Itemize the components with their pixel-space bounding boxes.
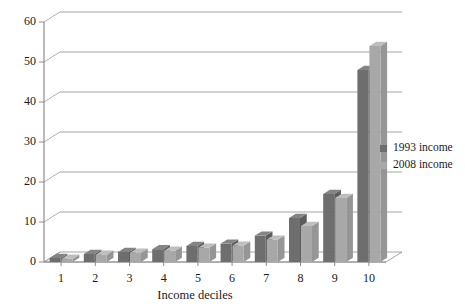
legend-label-1993: 1993 income: [393, 142, 453, 154]
x-axis-tick-9: 9: [320, 272, 350, 284]
y-axis-tick-0: 0: [8, 255, 36, 267]
y-axis-tick-60: 60: [8, 15, 36, 27]
x-axis-tick-3: 3: [115, 272, 145, 284]
y-axis-tick-50: 50: [8, 55, 36, 67]
y-axis-tick-40: 40: [8, 95, 36, 107]
bar-series-group: [50, 42, 388, 262]
x-axis-tick-8: 8: [286, 272, 316, 284]
x-axis-title: Income deciles: [0, 288, 390, 303]
y-axis-tick-10: 10: [8, 215, 36, 227]
legend-swatch-2008: [380, 162, 387, 169]
x-axis-tick-5: 5: [183, 272, 213, 284]
y-axis-tick-20: 20: [8, 175, 36, 187]
legend-item-1993: 1993 income: [380, 141, 465, 155]
x-axis-tick-1: 1: [46, 272, 76, 284]
y-axis-tick-30: 30: [8, 135, 36, 147]
bar-chart: 0102030405060 12345678910 Income deciles…: [0, 0, 465, 304]
x-axis-tick-10: 10: [354, 272, 384, 284]
x-axis-tick-6: 6: [217, 272, 247, 284]
x-axis-tick-2: 2: [80, 272, 110, 284]
legend-label-2008: 2008 income: [393, 159, 453, 171]
x-axis-tick-4: 4: [149, 272, 179, 284]
legend-swatch-1993: [380, 145, 387, 152]
x-axis-tick-7: 7: [251, 272, 281, 284]
gridlines: [60, 12, 402, 212]
legend-item-2008: 2008 income: [380, 158, 465, 172]
chart-legend: 1993 income 2008 income: [380, 141, 465, 175]
